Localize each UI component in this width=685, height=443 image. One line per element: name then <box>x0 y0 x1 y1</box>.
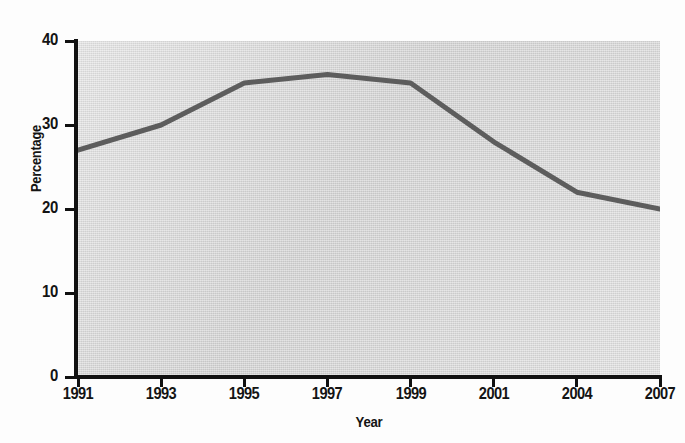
series-polyline <box>78 75 660 209</box>
plot-area <box>78 41 660 377</box>
x-tick-label: 2004 <box>544 384 609 404</box>
x-tick-label: 2001 <box>461 384 526 404</box>
x-tick-label: 1999 <box>378 384 443 404</box>
y-tick-label: 0 <box>16 366 58 386</box>
y-tick-mark <box>65 40 74 43</box>
line-chart-figure: 403020100 199119931995199719992001200420… <box>0 0 685 443</box>
y-tick-mark <box>65 208 74 211</box>
y-axis-line <box>74 39 78 379</box>
x-tick-label: 1997 <box>295 384 360 404</box>
y-tick-label: 40 <box>16 30 58 50</box>
x-tick-label: 2007 <box>627 384 685 404</box>
y-tick-mark <box>65 376 74 379</box>
y-tick-mark <box>65 124 74 127</box>
y-tick-mark <box>65 292 74 295</box>
data-series-line <box>78 41 660 377</box>
y-axis-title: Percentage <box>27 98 44 218</box>
y-tick-label: 10 <box>16 282 58 302</box>
x-tick-label: 1995 <box>212 384 277 404</box>
x-axis-title: Year <box>113 413 625 430</box>
x-tick-label: 1991 <box>45 384 110 404</box>
x-tick-label: 1993 <box>128 384 193 404</box>
